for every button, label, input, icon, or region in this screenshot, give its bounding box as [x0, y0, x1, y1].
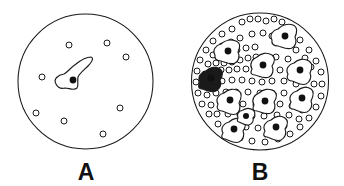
round-cell — [33, 110, 39, 116]
round-cell — [313, 104, 319, 110]
round-cell — [194, 68, 200, 74]
round-cell — [243, 66, 249, 72]
round-cell — [263, 18, 269, 24]
round-cell — [117, 105, 123, 111]
round-cell — [252, 44, 258, 50]
cell-nucleus — [243, 113, 249, 119]
round-cell — [100, 131, 106, 137]
figure-root: A B — [0, 0, 344, 186]
round-cell — [195, 90, 201, 96]
cell-nucleus — [299, 95, 306, 102]
round-cell — [255, 16, 261, 22]
cell-nucleus — [297, 67, 304, 74]
round-cell — [219, 31, 225, 37]
cell-nucleus — [260, 62, 267, 69]
round-cell — [245, 55, 251, 61]
round-cell — [249, 31, 255, 37]
round-cell — [262, 139, 268, 145]
round-cell — [306, 115, 312, 121]
round-cell — [210, 38, 216, 44]
round-cell — [255, 125, 261, 131]
round-cell — [205, 61, 211, 67]
round-cell — [243, 45, 249, 51]
round-cell — [311, 81, 317, 87]
round-cell — [260, 30, 266, 36]
panel-label-a: A — [78, 159, 95, 185]
round-cell — [277, 67, 283, 73]
round-cell — [204, 92, 210, 98]
round-cell — [226, 67, 232, 73]
round-cell — [281, 78, 287, 84]
round-cell — [271, 16, 277, 22]
round-cell — [206, 111, 212, 117]
round-cell — [249, 138, 255, 144]
cell-density-figure: A B — [0, 0, 344, 186]
round-cell — [247, 16, 253, 22]
round-cell — [123, 54, 129, 60]
cell-nucleus — [208, 75, 215, 82]
cell-nucleus — [273, 124, 280, 131]
round-cell — [66, 42, 72, 48]
round-cell — [279, 19, 285, 25]
round-cell — [318, 69, 324, 75]
cell-nucleus — [262, 98, 269, 105]
round-cell — [237, 35, 243, 41]
round-cell — [296, 116, 302, 122]
round-cell — [208, 102, 214, 108]
round-cell — [197, 57, 203, 63]
dish-outline-a — [18, 14, 153, 149]
round-cell — [319, 81, 325, 87]
cell-nucleus — [231, 126, 238, 133]
round-cell — [193, 79, 199, 85]
round-cell — [313, 58, 319, 64]
round-cell — [229, 77, 235, 83]
round-cell — [285, 56, 291, 62]
round-cell — [39, 74, 45, 80]
round-cell — [249, 78, 255, 84]
cell-nucleus — [227, 97, 234, 104]
round-cell — [306, 47, 312, 53]
round-cell — [277, 101, 283, 107]
round-cell — [104, 40, 110, 46]
cell-nucleus — [70, 77, 77, 84]
round-cell — [286, 112, 292, 118]
round-cell — [203, 47, 209, 53]
round-cell — [297, 124, 303, 130]
panel-label-b: B — [252, 159, 269, 185]
round-cell — [287, 131, 293, 137]
cell-nucleus — [282, 33, 289, 40]
round-cell — [318, 93, 324, 99]
cell-nucleus — [225, 48, 232, 55]
spread-cell — [237, 109, 255, 126]
round-cell — [61, 118, 67, 124]
round-cell — [214, 111, 220, 117]
round-cell — [239, 77, 245, 83]
round-cell — [215, 121, 221, 127]
round-cell — [239, 19, 245, 25]
round-cell — [234, 66, 240, 72]
round-cell — [240, 101, 246, 107]
round-cell — [229, 26, 235, 32]
round-cell — [259, 79, 265, 85]
round-cell — [269, 78, 275, 84]
round-cell — [297, 37, 303, 43]
round-cell — [199, 101, 205, 107]
round-cell — [281, 90, 287, 96]
round-cell — [293, 47, 299, 53]
round-cell — [245, 89, 251, 95]
